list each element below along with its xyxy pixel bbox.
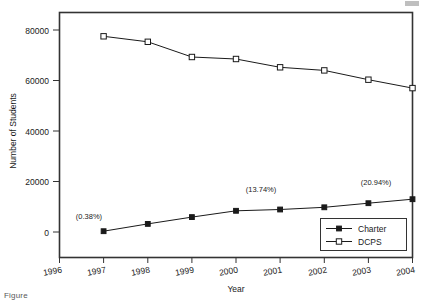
y-tick-label-0: 0 — [44, 228, 49, 238]
figure-caption-partial: Figure — [4, 291, 28, 300]
x-tick-label-2004: 2004 — [395, 264, 416, 277]
series-dcps-marker — [277, 65, 282, 70]
x-tick-label-1996: 1996 — [42, 264, 63, 277]
y-axis: 80000 60000 40000 20000 0 — [25, 26, 59, 238]
legend-label-dcps: DCPS — [358, 237, 382, 247]
series-dcps-marker — [366, 77, 371, 82]
y-tick-label-60000: 60000 — [25, 76, 49, 86]
annotation-charter-1997: (0.38%) — [76, 212, 103, 221]
legend-marker-charter — [337, 226, 342, 231]
series-dcps-marker — [189, 54, 194, 59]
series-dcps-marker — [410, 85, 415, 90]
legend[interactable]: Charter DCPS — [321, 219, 407, 251]
x-tick-label-2001: 2001 — [262, 264, 283, 277]
series-dcps-marker — [145, 39, 150, 44]
series-charter-marker — [190, 215, 195, 220]
x-tick-label-1997: 1997 — [86, 264, 107, 277]
y-axis-title: Number of Students — [8, 93, 18, 169]
legend-marker-dcps — [336, 239, 341, 244]
series-dcps-marker — [101, 34, 106, 39]
series-charter-marker — [322, 205, 327, 210]
x-tick-label-1999: 1999 — [174, 264, 195, 277]
y-tick-label-20000: 20000 — [25, 177, 49, 187]
x-tick-label-2002: 2002 — [307, 264, 328, 277]
series-dcps-marker — [233, 56, 238, 61]
series-charter-marker — [101, 229, 106, 234]
y-tick-label-40000: 40000 — [25, 127, 49, 137]
series-charter-marker — [234, 208, 239, 213]
series-charter-marker — [145, 222, 150, 227]
series-dcps — [101, 34, 415, 91]
series-dcps-marker — [322, 68, 327, 73]
x-axis: 1996 1997 1998 1999 2000 2001 2002 2003 … — [42, 258, 416, 278]
annotations: (0.38%) (13.74%) (20.94%) — [76, 178, 392, 221]
series-charter-marker — [410, 197, 415, 202]
series-charter-marker — [366, 201, 371, 206]
x-axis-title: Year — [227, 284, 244, 294]
x-tick-label-2003: 2003 — [351, 264, 372, 277]
x-tick-label-1998: 1998 — [130, 264, 151, 277]
line-chart: 80000 60000 40000 20000 0 Number of Stud… — [0, 0, 424, 301]
legend-label-charter: Charter — [358, 224, 387, 234]
y-tick-label-80000: 80000 — [25, 26, 49, 36]
series-charter-marker — [278, 207, 283, 212]
annotation-charter-2001: (13.74%) — [246, 185, 277, 194]
annotation-charter-2004: (20.94%) — [361, 178, 392, 187]
x-tick-label-2000: 2000 — [218, 264, 239, 277]
